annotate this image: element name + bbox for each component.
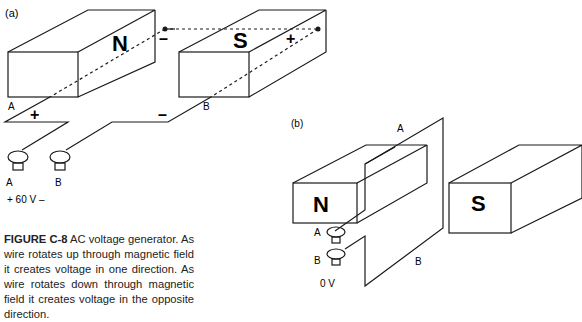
terminal-a-label-a: A xyxy=(6,177,13,188)
wire-end-a-label: A xyxy=(8,101,15,112)
polarity-s-top: + xyxy=(286,30,295,47)
magnet-s-label-a: S xyxy=(233,28,248,53)
magnet-n-label-a: N xyxy=(112,31,128,56)
figure-id: FIGURE C-8 xyxy=(4,233,67,245)
figure-caption: FIGURE C-8 AC voltage generator. As wire… xyxy=(4,232,194,322)
terminal-b-a xyxy=(50,151,70,170)
panel-a-label: (a) xyxy=(5,7,18,19)
magnet-s-b xyxy=(449,145,582,233)
wire-b-label-b: B xyxy=(415,256,422,267)
wire-loop-b xyxy=(335,118,443,286)
contact-dot-s xyxy=(316,27,321,32)
terminal-a-a xyxy=(8,151,28,170)
terminal-b-label-b: B xyxy=(314,255,321,266)
polarity-a: + xyxy=(30,106,39,123)
magnet-n-label-b: N xyxy=(313,192,329,217)
wire-a-label-b: A xyxy=(397,123,404,134)
terminal-a-b xyxy=(327,227,345,243)
magnet-s-a xyxy=(179,10,326,97)
magnet-s-label-b: S xyxy=(471,191,486,216)
terminal-b-b xyxy=(327,249,345,265)
polarity-b: – xyxy=(158,106,167,123)
magnet-n-a xyxy=(8,10,155,97)
voltage-b: 0 V xyxy=(320,278,335,289)
polarity-n-top: – xyxy=(159,30,168,47)
panel-b-label: (b) xyxy=(291,118,303,129)
wire-end-b-label: B xyxy=(203,101,210,112)
figure-caption-text: AC voltage generator. As wire rotates up… xyxy=(4,233,194,320)
wire-path-dashed xyxy=(50,29,318,97)
voltage-a: + 60 V – xyxy=(7,194,45,205)
terminal-b-label-a: B xyxy=(55,177,62,188)
terminal-a-label-b: A xyxy=(314,227,321,238)
wire-lead-b xyxy=(66,97,211,150)
